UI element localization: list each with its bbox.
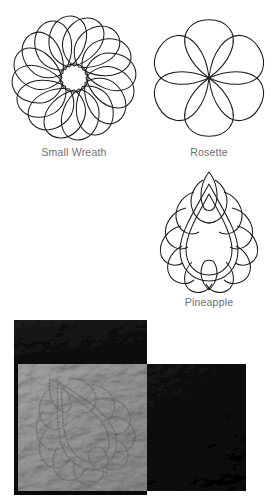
pineapple-outer-petals [160, 172, 257, 292]
rosette-petals [146, 20, 271, 137]
quilt-photo-image [14, 320, 246, 495]
rosette-drawing [146, 12, 272, 144]
small-wreath-petals [8, 12, 140, 144]
quilt-patch-top-dark [14, 320, 147, 364]
pineapple-drawing [146, 166, 272, 294]
caption-small-wreath: Small Wreath [8, 146, 140, 159]
caption-pineapple: Pineapple [146, 296, 272, 309]
small-wreath-drawing [8, 12, 140, 144]
figure-pineapple: Pineapple [146, 166, 272, 309]
figure-rosette: Rosette [146, 12, 272, 159]
quilt-photograph [14, 320, 246, 495]
quilt-patch-light-square [14, 354, 151, 495]
figure-small-wreath: Small Wreath [8, 12, 140, 159]
page: Small Wreath Rosette [0, 0, 276, 502]
caption-rosette: Rosette [146, 146, 272, 159]
small-wreath-center-circle [60, 64, 88, 92]
quilt-patch-right-dark [147, 364, 246, 491]
